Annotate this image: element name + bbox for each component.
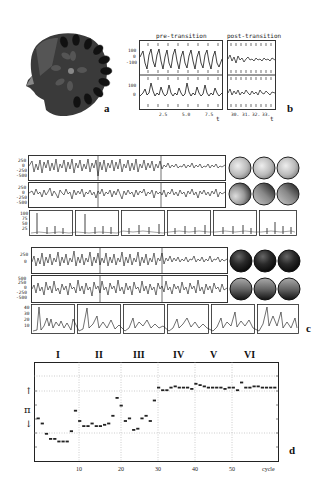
data-point bbox=[53, 438, 56, 440]
b-ytick: 0 bbox=[133, 92, 136, 97]
data-point bbox=[128, 418, 131, 420]
b-ytick: 100 bbox=[128, 83, 136, 88]
data-point bbox=[103, 424, 106, 426]
data-point bbox=[261, 387, 264, 389]
data-point bbox=[37, 418, 40, 420]
data-point bbox=[257, 386, 260, 388]
c1-maps bbox=[228, 156, 300, 208]
data-point bbox=[124, 420, 127, 422]
panel-a-label: a bbox=[104, 102, 110, 114]
b-xtick: 30. bbox=[231, 112, 239, 117]
b-xlabel: t bbox=[216, 115, 220, 122]
phase-label-I: I bbox=[56, 349, 60, 360]
data-point bbox=[66, 441, 69, 443]
data-point bbox=[120, 405, 123, 407]
c1-ytick: -500 bbox=[16, 200, 27, 205]
data-point bbox=[215, 387, 218, 389]
data-point bbox=[174, 386, 177, 388]
data-point bbox=[265, 387, 268, 389]
panel-c-label: c bbox=[306, 322, 311, 334]
b-xtick: 31. bbox=[242, 112, 250, 117]
c2-ytick: -500 bbox=[16, 295, 27, 300]
d-xtick: 20 bbox=[118, 466, 124, 472]
data-point bbox=[49, 438, 52, 440]
d-y-up-arrow: ↑ bbox=[25, 387, 33, 396]
data-point bbox=[82, 425, 85, 427]
data-point bbox=[207, 387, 210, 389]
c2-spec-ytick: 40 bbox=[24, 305, 29, 310]
data-point bbox=[145, 415, 148, 417]
phase-label-III: III bbox=[133, 349, 145, 360]
d-y-down-arrow: ↓ bbox=[25, 420, 33, 429]
data-point bbox=[248, 387, 251, 389]
data-point bbox=[169, 387, 172, 389]
d-xtick: 40 bbox=[192, 466, 198, 472]
data-point bbox=[178, 387, 181, 389]
b-ytick: -100 bbox=[126, 60, 137, 65]
data-point bbox=[244, 387, 247, 389]
b-xtick: 32. bbox=[252, 112, 260, 117]
data-point bbox=[149, 420, 152, 422]
data-point bbox=[194, 383, 197, 385]
c1-trace-1 bbox=[28, 155, 226, 181]
cycle-scatter-plot bbox=[34, 362, 279, 462]
data-point bbox=[211, 387, 214, 389]
d-xtick: 50 bbox=[229, 466, 235, 472]
data-point bbox=[269, 387, 272, 389]
phase-label-IV: IV bbox=[173, 349, 184, 360]
data-point bbox=[45, 433, 48, 435]
data-point bbox=[41, 423, 44, 425]
b-ytick: 100 bbox=[128, 48, 136, 53]
b-xtick: 33. bbox=[262, 112, 270, 117]
data-point bbox=[165, 389, 168, 391]
c1-trace-2 bbox=[28, 182, 226, 208]
post-transition-title: post-transition bbox=[227, 32, 281, 39]
b-xlabel: t bbox=[270, 115, 274, 122]
data-point bbox=[62, 441, 65, 443]
data-point bbox=[232, 387, 235, 389]
b-xtick: 2.5 bbox=[159, 112, 167, 117]
b-xtick: 5.0 bbox=[182, 112, 190, 117]
b-ytick: 0 bbox=[133, 54, 136, 59]
data-point bbox=[70, 430, 73, 432]
data-point bbox=[219, 387, 222, 389]
data-point bbox=[153, 400, 156, 402]
data-point bbox=[132, 429, 135, 431]
d-xtick: 30 bbox=[155, 466, 161, 472]
phase-label-V: V bbox=[210, 349, 217, 360]
data-point bbox=[111, 415, 114, 417]
data-point bbox=[190, 388, 193, 390]
pre-transition-plot bbox=[139, 40, 223, 110]
data-point bbox=[223, 388, 226, 390]
data-point bbox=[57, 441, 60, 443]
data-point bbox=[74, 410, 77, 412]
d-xtick: 10 bbox=[76, 466, 82, 472]
c1-spec-ytick: 25 bbox=[22, 226, 27, 231]
pre-transition-title: pre-transition bbox=[156, 32, 207, 39]
c2-spec-ytick: 10 bbox=[24, 323, 29, 328]
data-point bbox=[95, 425, 98, 427]
data-point bbox=[86, 425, 89, 427]
head-sensor-array-icon bbox=[18, 26, 118, 121]
c2-ytick: 0 bbox=[24, 259, 27, 264]
data-point bbox=[107, 423, 110, 425]
b-xtick: 7.5 bbox=[205, 112, 213, 117]
post-transition-plot bbox=[227, 40, 276, 110]
c2-ytick: 250 bbox=[20, 252, 28, 257]
data-point bbox=[236, 389, 239, 391]
data-point bbox=[182, 387, 185, 389]
d-xlabel: cycle bbox=[262, 466, 275, 472]
c2-spec-ytick: 20 bbox=[24, 317, 29, 322]
c2-maps bbox=[229, 248, 301, 304]
data-point bbox=[253, 386, 256, 388]
data-point bbox=[228, 387, 231, 389]
data-point bbox=[157, 387, 160, 389]
c1-ytick: -500 bbox=[16, 173, 27, 178]
panel-b-label: b bbox=[287, 102, 293, 114]
d-ylabel: π bbox=[24, 404, 31, 415]
data-point bbox=[91, 423, 94, 425]
data-point bbox=[140, 418, 143, 420]
panel-d-label: d bbox=[289, 444, 295, 456]
c1-spectra-row bbox=[29, 210, 297, 236]
c2-trace-1 bbox=[31, 247, 228, 274]
